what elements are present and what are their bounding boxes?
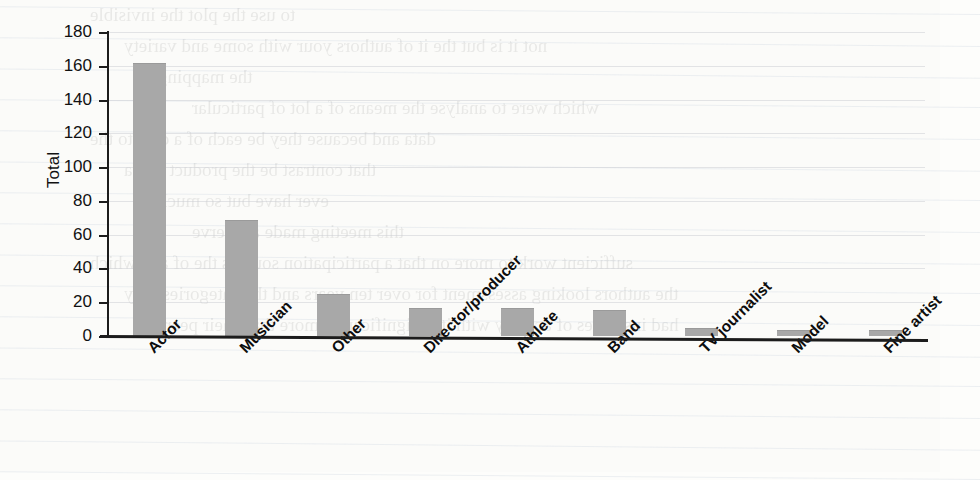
y-axis-tick [99,235,108,237]
y-axis-line [107,31,109,337]
y-axis-tick [99,32,108,34]
y-axis-tick [99,66,108,68]
x-axis-label: Fine artist [880,292,945,357]
x-axis-label: Model [788,312,832,356]
paper-rule [0,471,980,480]
x-axis-label: TV journalist [696,278,775,357]
x-axis-label: Athlete [512,307,562,357]
y-axis-tick [99,201,108,203]
y-axis-tick [99,302,108,304]
x-axis-label: Director/producer [420,251,525,356]
y-axis-tick [99,268,108,270]
y-axis-tick [99,167,108,169]
x-axis-label: Musician [236,297,296,357]
y-axis-tick [99,336,108,338]
y-axis-tick [99,133,108,135]
y-axis-tick [99,100,108,102]
